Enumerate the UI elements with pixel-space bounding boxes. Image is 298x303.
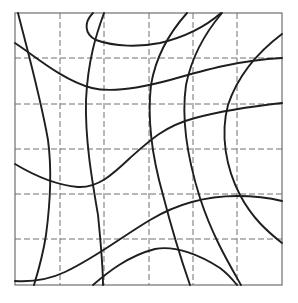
- curvilinear-grid-diagram: [0, 0, 298, 303]
- dashed-grid: [15, 13, 282, 285]
- curve-bottom-right-arc: [93, 248, 237, 285]
- curve-far-right-arc: [224, 34, 282, 243]
- diagram-canvas: [0, 0, 298, 303]
- curve-top-loop: [87, 13, 221, 46]
